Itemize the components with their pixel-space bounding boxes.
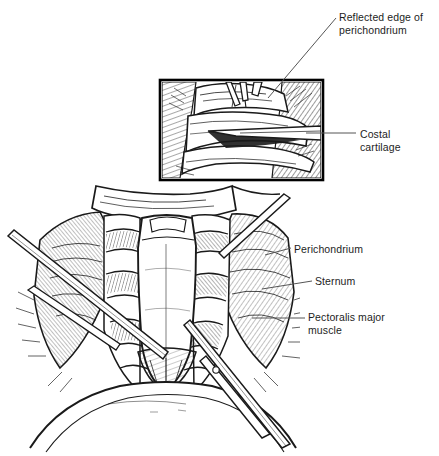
inset-detail-view xyxy=(160,80,323,180)
label-reflected-edge: Reflected edge of perichondrium xyxy=(339,11,423,36)
label-sternum: Sternum xyxy=(315,275,355,288)
surgical-illustration xyxy=(0,0,439,456)
label-costal-cartilage: Costal cartilage xyxy=(360,128,401,153)
label-pectoralis-major: Pectoralis major muscle xyxy=(308,311,385,336)
instrument-pivot xyxy=(213,367,219,373)
label-perichondrium: Perichondrium xyxy=(294,243,363,256)
